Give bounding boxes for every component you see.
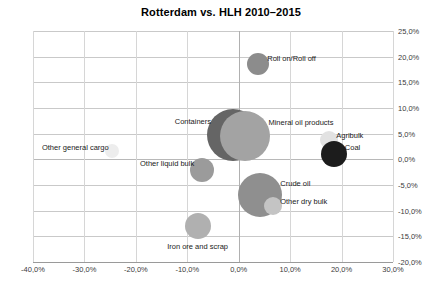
y-tick-label: 10,0% <box>398 104 419 113</box>
y-tick-label: -15,0% <box>398 232 422 241</box>
bubble-label: Iron ore and scrap <box>167 242 228 251</box>
bubble-label: Agribulk <box>336 131 363 140</box>
gridline-vertical <box>33 31 34 262</box>
bubble-label: Other general cargo <box>42 143 109 152</box>
x-tick-label: 0,0% <box>230 265 247 274</box>
bubble-label: Other dry bulk <box>280 197 327 206</box>
bubble-iron-ore-and-scrap[interactable] <box>185 213 211 239</box>
x-tick-label: 30,0% <box>382 265 403 274</box>
bubble-label: Roll on/Roll off <box>267 54 316 63</box>
bubble-label: Crude oil <box>280 179 310 188</box>
bubble-chart: Rotterdam vs. HLH 2010–2015 25,0%20,0%15… <box>0 0 442 291</box>
x-tick-label: 10,0% <box>280 265 301 274</box>
x-tick-label: 20,0% <box>331 265 352 274</box>
bubble-label: Other liquid bulk <box>140 159 194 168</box>
y-tick-label: 25,0% <box>398 27 419 36</box>
bubble-mineral-oil-products[interactable] <box>220 111 270 161</box>
bubble-label: Containers <box>175 116 211 125</box>
x-tick-label: -10,0% <box>175 265 199 274</box>
gridline-horizontal <box>33 82 393 83</box>
gridline-vertical <box>393 31 394 262</box>
chart-title: Rotterdam vs. HLH 2010–2015 <box>0 6 442 18</box>
gridline-horizontal <box>33 31 393 32</box>
gridline-vertical <box>290 31 291 262</box>
y-tick-label: -10,0% <box>398 206 422 215</box>
gridline-horizontal <box>33 185 393 186</box>
gridline-horizontal <box>33 236 393 237</box>
x-tick-label: -40,0% <box>21 265 45 274</box>
bubble-coal[interactable] <box>321 141 347 167</box>
y-tick-label: 20,0% <box>398 52 419 61</box>
y-tick-label: 0,0% <box>398 155 415 164</box>
bubble-roll-on-roll-off[interactable] <box>247 53 269 75</box>
x-tick-label: -30,0% <box>73 265 97 274</box>
x-tick-label: -20,0% <box>124 265 148 274</box>
bubble-label: Mineral oil products <box>268 118 333 127</box>
gridline-horizontal <box>33 211 393 212</box>
y-tick-label: -5,0% <box>398 181 418 190</box>
gridline-horizontal <box>33 108 393 109</box>
y-tick-label: 5,0% <box>398 129 415 138</box>
gridline-horizontal <box>33 262 393 263</box>
gridline-horizontal <box>33 57 393 58</box>
bubble-label: Coal <box>345 143 360 152</box>
gridline-vertical <box>136 31 137 262</box>
y-tick-label: 15,0% <box>398 78 419 87</box>
